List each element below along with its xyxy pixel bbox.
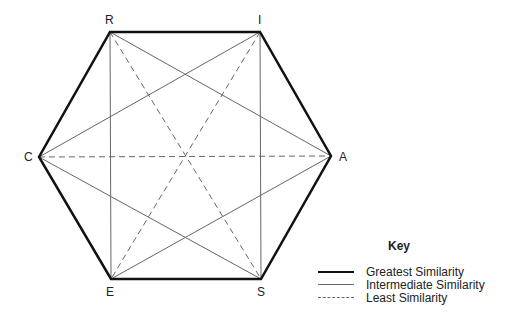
vertex-label-c: C — [24, 151, 33, 163]
vertex-label-a: A — [339, 151, 347, 163]
thick-line-icon — [318, 271, 354, 273]
edge-i-c — [39, 32, 260, 157]
legend-item-least: Least Similarity — [318, 291, 447, 304]
legend-title: Key — [388, 239, 410, 253]
vertex-label-r: R — [105, 14, 114, 26]
legend-label: Least Similarity — [366, 291, 447, 305]
legend-item-intermediate: Intermediate Similarity — [318, 278, 485, 291]
edge-i-e — [111, 32, 260, 279]
dashed-line-icon — [318, 297, 354, 298]
edge-c-s — [39, 157, 261, 279]
edge-r-e — [110, 32, 111, 279]
legend-label: Intermediate Similarity — [366, 278, 485, 292]
vertex-label-e: E — [106, 286, 114, 298]
edge-e-a — [111, 156, 331, 279]
edge-i-s — [260, 32, 261, 279]
vertex-label-s: S — [257, 286, 265, 298]
least-similarity-edges — [39, 32, 331, 279]
edge-r-a — [110, 32, 331, 156]
legend-label: Greatest Similarity — [366, 265, 464, 279]
vertex-label-i: I — [258, 14, 261, 26]
legend-item-greatest: Greatest Similarity — [318, 265, 464, 278]
thin-line-icon — [318, 284, 354, 285]
